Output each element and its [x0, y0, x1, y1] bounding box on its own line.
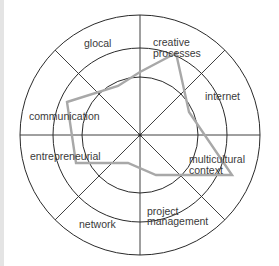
label-glocal: glocal	[84, 37, 111, 49]
label-creative-processes-line2: processes	[153, 47, 201, 59]
label-network: network	[79, 218, 117, 230]
radar-diagram: glocal creative processes internet multi…	[0, 0, 279, 266]
label-project-management-line2: management	[147, 215, 208, 227]
label-communication: communication	[29, 110, 100, 122]
center-dot	[138, 133, 141, 136]
label-multicultural-context-line2: context	[189, 164, 223, 176]
radar-diagram-canvas: glocal creative processes internet multi…	[0, 0, 279, 266]
label-entrepreneurial: entrepreneurial	[30, 150, 101, 162]
label-internet: internet	[205, 90, 240, 102]
